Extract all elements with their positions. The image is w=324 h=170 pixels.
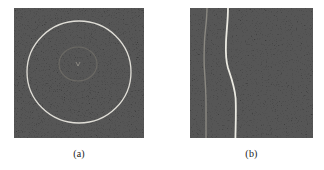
panel-a-svg <box>14 8 144 138</box>
panel-a-noise-layer <box>14 8 144 138</box>
caption-panel-a: (a) <box>14 148 144 159</box>
caption-panel-b: (b) <box>190 148 313 159</box>
panel-b-noise-layer <box>190 8 313 138</box>
panel-b-image <box>190 8 313 138</box>
figure-container: (a) (b) <box>0 0 324 170</box>
panel-b-svg <box>190 8 313 138</box>
panel-a-image <box>14 8 144 138</box>
